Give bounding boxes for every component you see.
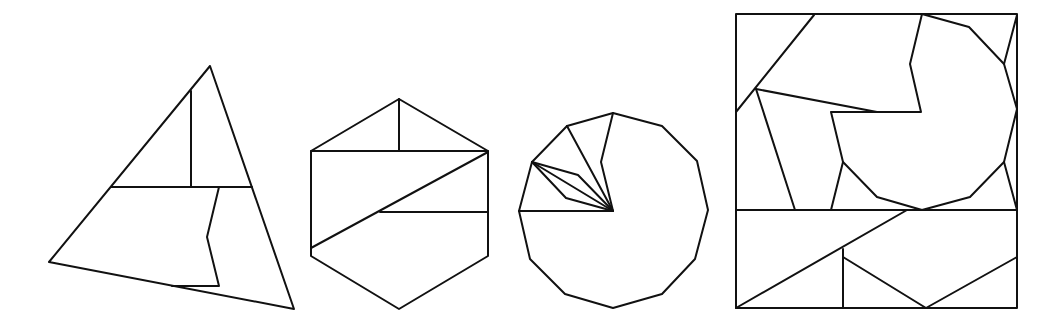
hexagon-cut [311,152,488,248]
square-cut [736,210,907,308]
dissection-diagram [0,0,1056,333]
square-cut [756,14,922,112]
hexagon-dissection [311,99,488,309]
dodecagon-cut [601,113,613,211]
square-cut [831,162,843,210]
square-dissection [736,14,1017,308]
square-cut [756,89,795,210]
square-cut [843,257,1017,308]
square-cut [1004,162,1017,210]
square-cut [1004,15,1017,64]
triangle-dissection [49,66,294,309]
triangle-cut [172,187,219,286]
square-cut [831,14,1017,210]
dodecagon-dissection [519,113,708,308]
